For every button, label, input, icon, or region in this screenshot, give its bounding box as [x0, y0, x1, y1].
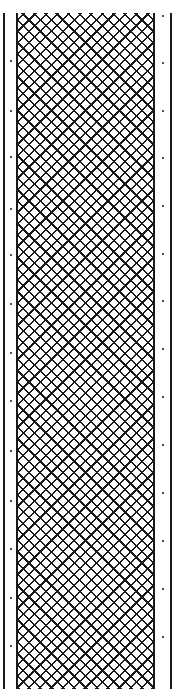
dot-marker [162, 588, 164, 590]
dot-marker [162, 540, 164, 542]
dot-marker [162, 253, 164, 255]
dot-marker [162, 62, 164, 64]
dot-marker [162, 444, 164, 446]
dot-marker [162, 636, 164, 638]
crosshatch-strip-figure [0, 0, 180, 700]
dot-marker [10, 500, 12, 502]
dot-marker [10, 110, 12, 112]
left-border-line [3, 13, 5, 689]
dot-marker [10, 208, 12, 210]
dot-marker [162, 15, 164, 17]
dot-marker [10, 597, 12, 599]
dot-marker [162, 157, 164, 159]
right-border-line [170, 13, 172, 689]
dot-marker [10, 400, 12, 402]
dot-marker [10, 303, 12, 305]
dot-marker [162, 492, 164, 494]
dot-marker [10, 352, 12, 354]
dot-marker [10, 645, 12, 647]
dot-marker [162, 348, 164, 350]
dot-marker [10, 156, 12, 158]
dot-marker [10, 254, 12, 256]
dot-marker [162, 300, 164, 302]
crosshatched-band [16, 13, 155, 689]
dot-marker [10, 60, 12, 62]
dot-marker [162, 110, 164, 112]
dot-marker [162, 396, 164, 398]
dot-marker [162, 205, 164, 207]
dot-marker [10, 450, 12, 452]
dot-marker [10, 548, 12, 550]
